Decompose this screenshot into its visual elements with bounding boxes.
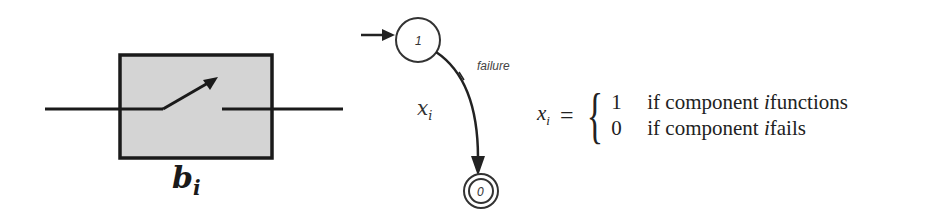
indicator-formula: xi = { 1 if component i functions 0 if c… xyxy=(537,84,848,146)
state-0-label: 0 xyxy=(477,185,484,199)
formula-lhs: xi xyxy=(537,101,550,129)
equals-sign: = xyxy=(560,102,574,129)
state-diagram: 1 0 failure xi xyxy=(361,18,510,208)
case-fails: 0 if component i fails xyxy=(611,115,848,141)
case-functions: 1 if component i functions xyxy=(611,89,848,115)
cases-list: 1 if component i functions 0 if componen… xyxy=(611,89,848,141)
cases-brace: { xyxy=(586,84,602,146)
component-switch-block xyxy=(45,55,343,158)
transition-label: failure xyxy=(477,59,510,73)
state-variable: xi xyxy=(417,96,432,123)
block-label: bi xyxy=(172,160,201,200)
state-1-label: 1 xyxy=(415,34,422,48)
